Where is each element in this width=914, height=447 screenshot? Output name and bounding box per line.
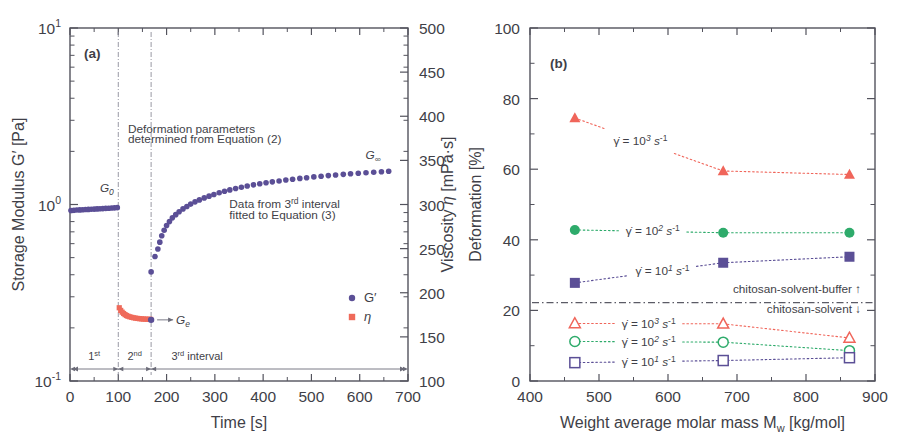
panel-a: 0100200300400500600700Time [s]10-1100101… bbox=[0, 0, 462, 447]
data-point-G′ bbox=[155, 246, 161, 252]
x-tick-label: 500 bbox=[298, 388, 324, 405]
series-label-shear-rate: γ̇ = 102 s-1 bbox=[622, 334, 676, 349]
data-point-G′ bbox=[201, 195, 207, 201]
data-point-G′ bbox=[211, 192, 217, 198]
data-point-chitosan-solvent-buffer, shear rate 10¹ s⁻¹ bbox=[844, 252, 854, 262]
interval-tick-arrow bbox=[118, 367, 123, 371]
panel-b-plot-frame bbox=[530, 28, 875, 381]
label-Ginf: G∞ bbox=[366, 148, 381, 164]
data-point-G′ bbox=[276, 178, 282, 184]
data-point-G′ bbox=[333, 172, 339, 178]
data-point-G′ bbox=[270, 179, 276, 185]
interval-label: 3rd interval bbox=[171, 349, 222, 362]
series-label-shear-rate: γ̇ = 103 s-1 bbox=[613, 133, 667, 148]
data-point-G′ bbox=[355, 170, 361, 176]
x-tick-label: 0 bbox=[66, 388, 75, 405]
group-label-buffer: chitosan-solvent-buffer ↑ bbox=[733, 282, 861, 296]
y-tick-label: 60 bbox=[503, 161, 521, 178]
interval-tick-arrow bbox=[70, 367, 75, 371]
y-right-axis-title: Viscosity η [mPa·s] bbox=[439, 137, 456, 273]
data-point-G′ bbox=[379, 169, 385, 175]
data-point-G′ bbox=[290, 176, 296, 182]
data-point-G′ bbox=[311, 174, 317, 180]
x-tick-label: 100 bbox=[105, 388, 131, 405]
data-point-G′ bbox=[251, 182, 257, 188]
data-point-G′ bbox=[222, 188, 228, 194]
data-point-G′ bbox=[206, 193, 212, 199]
panel-b-tag: (b) bbox=[550, 56, 567, 71]
y-tick-label: 100 bbox=[494, 20, 520, 37]
Ge-arrow-head bbox=[168, 317, 173, 322]
data-point-chitosan-solvent, shear rate 10¹ s⁻¹ bbox=[718, 356, 728, 366]
label-G0: G0 bbox=[100, 181, 114, 197]
series-connector bbox=[723, 257, 849, 263]
data-point-chitosan-solvent-buffer, shear rate 10² s⁻¹ bbox=[844, 228, 854, 238]
series-label-shear-rate: γ̇ = 101 s-1 bbox=[622, 354, 676, 369]
y-tick-label: 20 bbox=[503, 302, 521, 319]
annotation-deformation-params-2: determined from Equation (2) bbox=[128, 132, 282, 146]
series-connector bbox=[723, 324, 849, 338]
panel-a-legend: G′η bbox=[349, 290, 377, 324]
data-point-G′ bbox=[326, 173, 332, 179]
series-label-shear-rate: γ̇ = 101 s-1 bbox=[636, 263, 690, 278]
data-point-G′ bbox=[197, 197, 203, 203]
isolated-point-Ge bbox=[148, 317, 154, 323]
figure-container: 0100200300400500600700Time [s]10-1100101… bbox=[0, 0, 914, 447]
x-tick-label: 600 bbox=[347, 388, 373, 405]
data-point-G′ bbox=[152, 254, 158, 260]
x-tick-label: 300 bbox=[202, 388, 228, 405]
x-axis-title: Weight average molar mass Mw [kg/mol] bbox=[560, 414, 845, 434]
data-point-G′ bbox=[348, 171, 354, 177]
data-point-G′ bbox=[157, 239, 163, 245]
data-point-chitosan-solvent, shear rate 10² s⁻¹ bbox=[718, 337, 728, 347]
data-point-G′ bbox=[227, 187, 233, 193]
data-point-G′ bbox=[297, 176, 303, 182]
series-connector bbox=[674, 154, 723, 171]
annotation-fit-line-2: fitted to Equation (3) bbox=[229, 208, 335, 222]
data-point-chitosan-solvent, shear rate 10¹ s⁻¹ bbox=[844, 353, 854, 363]
data-point-chitosan-solvent-buffer, shear rate 10² s⁻¹ bbox=[718, 228, 728, 238]
panel-b-svg: 400500600700800900Weight average molar m… bbox=[455, 0, 914, 447]
x-tick-label: 400 bbox=[517, 388, 543, 405]
data-point-G′ bbox=[263, 180, 269, 186]
panel-a-guides bbox=[118, 32, 151, 375]
y-right-tick-label: 150 bbox=[419, 329, 445, 346]
data-point-chitosan-solvent-buffer, shear rate 10³ s⁻¹ bbox=[569, 112, 580, 122]
panel-a-data bbox=[68, 168, 391, 323]
data-point-chitosan-solvent-buffer, shear rate 10² s⁻¹ bbox=[570, 225, 580, 235]
y-tick-label: 80 bbox=[503, 91, 521, 108]
x-tick-label: 700 bbox=[724, 388, 750, 405]
series-label-shear-rate: γ̇ = 102 s-1 bbox=[626, 223, 680, 238]
data-point-G′ bbox=[159, 233, 165, 239]
series-connector bbox=[723, 342, 849, 350]
series-connector bbox=[575, 276, 629, 283]
interval-tick-arrow bbox=[403, 367, 408, 371]
data-point-G′ bbox=[340, 172, 346, 178]
legend-marker-η bbox=[349, 314, 355, 320]
series-label-shear-rate: γ̇ = 103 s-1 bbox=[622, 316, 676, 331]
panel-b-annotations: γ̇ = 103 s-1γ̇ = 102 s-1γ̇ = 101 s-1γ̇ =… bbox=[532, 56, 873, 369]
y-axis-title: Deformation [%] bbox=[467, 147, 484, 262]
y-axis-title: Storage Modulus G′ [Pa] bbox=[10, 118, 27, 292]
interval-label: 2nd bbox=[127, 349, 141, 362]
data-point-chitosan-solvent-buffer, shear rate 10¹ s⁻¹ bbox=[570, 278, 580, 288]
x-tick-label: 500 bbox=[586, 388, 612, 405]
data-point-G′ bbox=[318, 173, 324, 179]
series-connector bbox=[575, 362, 615, 363]
data-point-G′ bbox=[244, 183, 250, 189]
panel-a-tag: (a) bbox=[84, 46, 101, 61]
data-point-G′ bbox=[115, 205, 121, 211]
series-connector bbox=[687, 232, 723, 233]
panel-a-svg: 0100200300400500600700Time [s]10-1100101… bbox=[0, 0, 462, 447]
series-connector bbox=[575, 118, 607, 129]
interval-tick-arrow bbox=[146, 367, 151, 371]
data-point-G′ bbox=[386, 168, 392, 174]
series-connector bbox=[683, 361, 724, 362]
label-Ge: Ge bbox=[176, 313, 190, 329]
series-connector bbox=[723, 358, 849, 361]
data-point-chitosan-solvent, shear rate 10³ s⁻¹ bbox=[718, 318, 729, 328]
y-tick-label: 40 bbox=[503, 232, 521, 249]
data-point-G′ bbox=[148, 269, 154, 275]
data-point-G′ bbox=[304, 175, 310, 181]
x-tick-label: 200 bbox=[154, 388, 180, 405]
